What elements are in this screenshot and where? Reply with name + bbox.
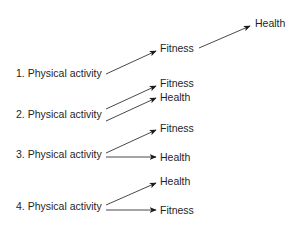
- arrow-4-activity-to-health: [106, 183, 156, 205]
- model-2-fitness-node: Fitness: [160, 77, 194, 89]
- model-1-fitness-node: Fitness: [160, 42, 194, 54]
- model-1-source-label: 1. Physical activity: [16, 67, 102, 79]
- model-4-health-node: Health: [160, 175, 190, 187]
- arrow-3-activity-to-fitness: [106, 130, 156, 153]
- arrow-2-activity-to-fitness: [106, 86, 156, 109]
- arrow-1-fitness-to-health: [199, 26, 250, 48]
- model-2-health-node: Health: [160, 91, 190, 103]
- arrow-1-activity-to-fitness: [106, 51, 156, 74]
- model-4-fitness-node: Fitness: [160, 204, 194, 216]
- model-3-source-label: 3. Physical activity: [16, 148, 102, 160]
- model-4-source-label: 4. Physical activity: [16, 200, 102, 212]
- model-2-source-label: 2. Physical activity: [16, 108, 102, 120]
- model-1-health-node: Health: [255, 17, 285, 29]
- model-3-health-node: Health: [160, 151, 190, 163]
- model-3-fitness-node: Fitness: [160, 122, 194, 134]
- arrow-2-activity-to-health: [106, 98, 156, 121]
